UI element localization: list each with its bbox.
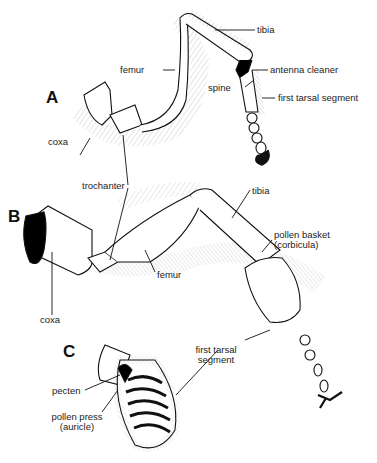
panel-label-b: B xyxy=(8,207,20,227)
leg-c xyxy=(98,345,175,448)
label-a-femur: femur xyxy=(120,65,144,75)
bee-leg-diagram: A B C tibia femur antenna cleaner spine … xyxy=(0,0,377,463)
label-b-femur: femur xyxy=(157,270,181,280)
label-b-tibia: tibia xyxy=(252,186,269,196)
label-b-trochanter: trochanter xyxy=(82,181,125,191)
label-a-tibia: tibia xyxy=(257,25,274,35)
label-a-coxa: coxa xyxy=(48,137,68,147)
label-a-spine: spine xyxy=(208,83,231,93)
panel-label-a: A xyxy=(46,88,58,108)
label-b-coxa: coxa xyxy=(40,315,60,325)
label-b-segment: segment xyxy=(186,355,246,365)
label-c-pecten: pecten xyxy=(52,386,81,396)
leg-b xyxy=(24,189,342,408)
leg-a xyxy=(78,13,269,165)
label-a-first-tarsal-segment: first tarsal segment xyxy=(278,93,358,103)
label-b-corbicula: (corbicula) xyxy=(274,240,318,250)
label-a-antenna-cleaner: antenna cleaner xyxy=(270,65,338,75)
panel-label-c: C xyxy=(63,342,75,362)
label-c-auricle: (auricle) xyxy=(42,422,112,432)
